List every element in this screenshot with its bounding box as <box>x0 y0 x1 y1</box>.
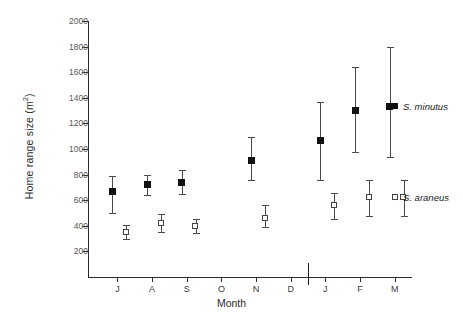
x-axis-tick <box>395 277 396 282</box>
data-marker <box>144 181 151 188</box>
y-axis-tick-label: 600 <box>50 195 88 205</box>
legend-item-s-minutus: S. minutus <box>392 101 448 112</box>
error-bar-cap <box>193 219 200 220</box>
error-bar-cap <box>123 239 130 240</box>
y-axis-title: Home range size (m2) <box>22 56 35 236</box>
data-marker <box>331 202 337 208</box>
legend-marker-icon <box>392 103 398 109</box>
error-bar-cap <box>248 137 255 138</box>
x-axis-title: Month <box>0 297 463 309</box>
x-axis-line <box>88 277 412 278</box>
error-bar-cap <box>331 219 338 220</box>
error-bar-cap <box>144 195 151 196</box>
y-axis-tick-label: 800 <box>50 170 88 180</box>
error-bar-cap <box>352 67 359 68</box>
x-axis-tick <box>187 277 188 282</box>
x-axis-tick <box>117 277 118 282</box>
error-bar-cap <box>387 157 394 158</box>
x-axis-tick-label: S <box>175 284 199 294</box>
data-marker <box>317 137 324 144</box>
data-marker <box>178 179 185 186</box>
x-axis-tick-label: N <box>244 284 268 294</box>
data-marker <box>366 194 372 200</box>
year-break-separator <box>308 263 309 285</box>
error-bar-cap <box>401 216 408 217</box>
data-marker <box>352 107 359 114</box>
y-axis-tick-label: 1400 <box>50 93 88 103</box>
data-marker <box>123 229 129 235</box>
error-bar-cap <box>262 205 269 206</box>
legend-label: S. minutus <box>403 101 448 112</box>
legend-label: S. araneus <box>403 192 449 203</box>
y-axis-tick-label: 1600 <box>50 67 88 77</box>
error-bar-line <box>390 47 391 157</box>
error-bar-cap <box>317 180 324 181</box>
error-bar-cap <box>387 47 394 48</box>
y-axis-tick-label: 400 <box>50 221 88 231</box>
error-bar-cap <box>366 216 373 217</box>
error-bar-cap <box>262 227 269 228</box>
y-axis-title-text: Home range size (m2) <box>22 93 34 199</box>
error-bar-cap <box>123 225 130 226</box>
x-axis-tick <box>291 277 292 282</box>
error-bar-cap <box>401 180 408 181</box>
x-axis-tick <box>360 277 361 282</box>
y-axis-tick-label: 1000 <box>50 144 88 154</box>
y-axis-tick-label: 200 <box>50 246 88 256</box>
home-range-size-chart: Home range size (m2) Month 2004006008001… <box>0 0 463 321</box>
error-bar-cap <box>366 180 373 181</box>
error-bar-cap <box>179 170 186 171</box>
legend-marker-icon <box>392 194 398 200</box>
error-bar-cap <box>144 175 151 176</box>
x-axis-tick-label: F <box>348 284 372 294</box>
y-axis-line <box>88 21 89 278</box>
x-axis-tick-label: J <box>313 284 337 294</box>
error-bar-cap <box>317 102 324 103</box>
legend-item-s-araneus: S. araneus <box>392 192 449 203</box>
error-bar-cap <box>158 232 165 233</box>
x-axis-tick <box>221 277 222 282</box>
error-bar-cap <box>109 176 116 177</box>
x-axis-tick <box>256 277 257 282</box>
x-axis-tick-label: O <box>209 284 233 294</box>
data-marker <box>262 215 268 221</box>
error-bar-cap <box>331 193 338 194</box>
x-axis-tick-label: M <box>383 284 407 294</box>
data-marker <box>192 223 198 229</box>
error-bar-cap <box>352 152 359 153</box>
x-axis-tick-label: D <box>279 284 303 294</box>
x-axis-tick <box>152 277 153 282</box>
x-axis-tick-label: A <box>140 284 164 294</box>
data-marker <box>109 188 116 195</box>
x-axis-tick-label: J <box>105 284 129 294</box>
error-bar-cap <box>248 180 255 181</box>
y-axis-tick-label: 2000 <box>50 16 88 26</box>
error-bar-cap <box>109 213 116 214</box>
y-axis-tick-label: 1200 <box>50 118 88 128</box>
error-bar-cap <box>158 214 165 215</box>
y-axis-tick-label: 1800 <box>50 42 88 52</box>
data-marker <box>158 220 164 226</box>
x-axis-tick <box>325 277 326 282</box>
error-bar-cap <box>193 233 200 234</box>
error-bar-cap <box>179 194 186 195</box>
data-marker <box>248 157 255 164</box>
